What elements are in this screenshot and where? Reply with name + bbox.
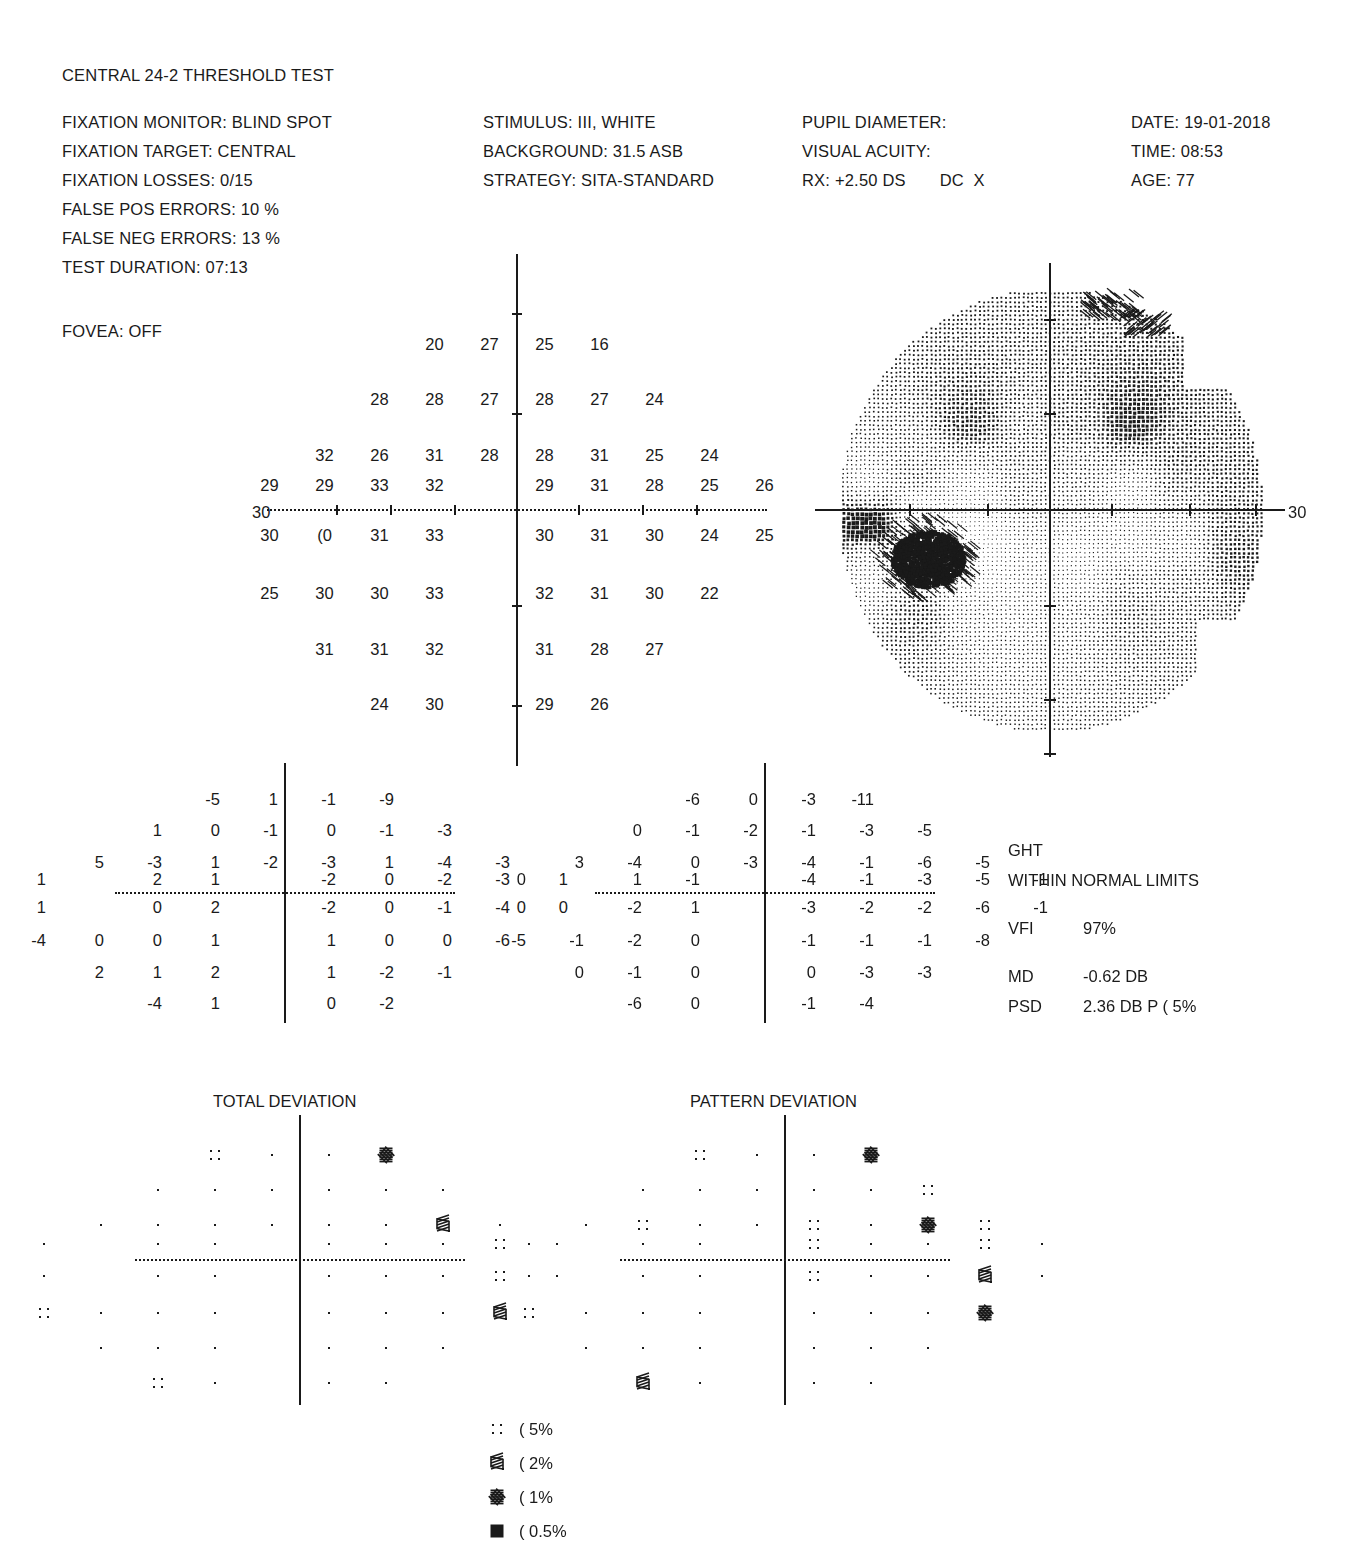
legend-label: ( 5% xyxy=(519,1420,553,1439)
probability-symbol-n xyxy=(375,1179,397,1201)
pattern-deviation-symbol xyxy=(689,1372,711,1394)
total-deviation-symbol xyxy=(546,1233,568,1255)
total-deviation-value: 0 xyxy=(368,871,394,888)
legend-symbol-5 xyxy=(485,1418,511,1440)
pattern-deviation-symbol xyxy=(632,1265,654,1287)
pattern-deviation-symbol xyxy=(803,1337,825,1359)
horizontal-axis xyxy=(115,892,455,894)
probability-symbol-n xyxy=(1031,1233,1053,1255)
pattern-deviation-value: 0 xyxy=(500,871,526,888)
probability-symbol-n xyxy=(632,1265,654,1287)
legend-symbol-canvas xyxy=(485,1418,509,1440)
false-neg-errors-line: FALSE NEG ERRORS: 13 % xyxy=(62,224,332,253)
probability-symbol-n xyxy=(90,1337,112,1359)
total-deviation-value: 0 xyxy=(542,899,568,916)
total-deviation-value: 1 xyxy=(136,822,162,839)
axis-tick xyxy=(512,313,522,315)
probability-symbol-n xyxy=(33,1233,55,1255)
pattern-deviation-value: -4 xyxy=(790,854,816,871)
probability-symbol-n xyxy=(147,1265,169,1287)
pattern-deviation-symbol xyxy=(689,1265,711,1287)
probability-symbol-n xyxy=(860,1233,882,1255)
pattern-deviation-value: 0 xyxy=(674,854,700,871)
total-deviation-symbol xyxy=(375,1265,397,1287)
legend-symbol-canvas xyxy=(485,1520,509,1542)
rx-line: RX: +2.50 DSDC X xyxy=(802,166,985,195)
total-deviation-value: 1 xyxy=(542,871,568,888)
total-deviation-value: 0 xyxy=(310,995,336,1012)
total-deviation-value: 1 xyxy=(310,932,336,949)
legend-symbol-2 xyxy=(485,1452,511,1474)
threshold-value: 30 xyxy=(418,695,452,713)
horizontal-axis xyxy=(267,509,767,511)
threshold-value: 32 xyxy=(418,476,452,494)
probability-symbol-1 xyxy=(974,1302,996,1324)
pattern-deviation-value: 0 xyxy=(674,995,700,1012)
threshold-value: 31 xyxy=(583,584,617,602)
axis-tick xyxy=(454,505,456,515)
threshold-sensitivity-map: 2027251628282728272432263128283125242929… xyxy=(247,250,787,770)
threshold-value: 28 xyxy=(418,390,452,408)
pattern-deviation-value: -1 xyxy=(790,995,816,1012)
total-deviation-value: -1 xyxy=(310,791,336,808)
pattern-deviation-caption: PATTERN DEVIATION xyxy=(690,1092,857,1111)
threshold-value: 33 xyxy=(418,526,452,544)
psd-label: PSD xyxy=(1008,991,1083,1021)
probability-symbol-n xyxy=(318,1179,340,1201)
pattern-deviation-symbol xyxy=(917,1233,939,1255)
threshold-value: 22 xyxy=(693,584,727,602)
threshold-value: 27 xyxy=(638,640,672,658)
pattern-deviation-symbol xyxy=(860,1144,882,1166)
vfi-row: VFI97% xyxy=(1008,913,1199,943)
pattern-deviation-value: -4 xyxy=(790,871,816,888)
pattern-deviation-value: 0 xyxy=(616,822,642,839)
total-deviation-symbol xyxy=(33,1233,55,1255)
probability-symbol-5 xyxy=(33,1302,55,1324)
pattern-deviation-symbol xyxy=(746,1214,768,1236)
pattern-deviation-value: -1 xyxy=(558,932,584,949)
probability-symbol-n xyxy=(432,1302,454,1324)
pattern-deviation-symbol xyxy=(803,1179,825,1201)
probability-symbol-n xyxy=(689,1265,711,1287)
total-deviation-symbol xyxy=(432,1337,454,1359)
probability-symbol-n xyxy=(261,1214,283,1236)
probability-symbol-n xyxy=(860,1337,882,1359)
pattern-deviation-symbol xyxy=(575,1302,597,1324)
threshold-value: 30 xyxy=(638,584,672,602)
probability-symbol-5 xyxy=(803,1265,825,1287)
visual-acuity-line: VISUAL ACUITY: xyxy=(802,137,985,166)
threshold-value: 30 xyxy=(638,526,672,544)
total-deviation-symbol xyxy=(90,1337,112,1359)
probability-symbol-n xyxy=(318,1337,340,1359)
threshold-value: 32 xyxy=(418,640,452,658)
threshold-value: 28 xyxy=(638,476,672,494)
pattern-deviation-symbol xyxy=(689,1233,711,1255)
total-deviation-value: 1 xyxy=(310,964,336,981)
pattern-deviation-symbol xyxy=(689,1337,711,1359)
threshold-value: 24 xyxy=(693,526,727,544)
pattern-deviation-value: -8 xyxy=(964,932,990,949)
pattern-deviation-value: -1 xyxy=(848,932,874,949)
probability-symbol-5 xyxy=(489,1265,511,1287)
pattern-deviation-symbol xyxy=(917,1179,939,1201)
total-deviation-symbol xyxy=(375,1372,397,1394)
total-deviation-symbol xyxy=(318,1337,340,1359)
probability-symbol-n xyxy=(632,1179,654,1201)
pattern-deviation-value: -1 xyxy=(674,871,700,888)
probability-symbol-n xyxy=(432,1233,454,1255)
threshold-value: 27 xyxy=(473,335,507,353)
threshold-value: 30 xyxy=(363,584,397,602)
total-deviation-value: -2 xyxy=(310,871,336,888)
probability-symbol-n xyxy=(803,1372,825,1394)
pattern-deviation-symbol xyxy=(689,1179,711,1201)
probability-symbol-n xyxy=(632,1302,654,1324)
stimulus-line: STIMULUS: III, WHITE xyxy=(483,108,714,137)
probability-symbol-n xyxy=(90,1214,112,1236)
pattern-deviation-value: -11 xyxy=(848,791,874,808)
probability-symbol-n xyxy=(860,1265,882,1287)
pattern-deviation-value: -1 xyxy=(790,822,816,839)
legend-symbol-canvas xyxy=(485,1452,509,1474)
axis-tick xyxy=(578,505,580,515)
axis-tick xyxy=(642,505,644,515)
total-deviation-value: 2 xyxy=(194,899,220,916)
